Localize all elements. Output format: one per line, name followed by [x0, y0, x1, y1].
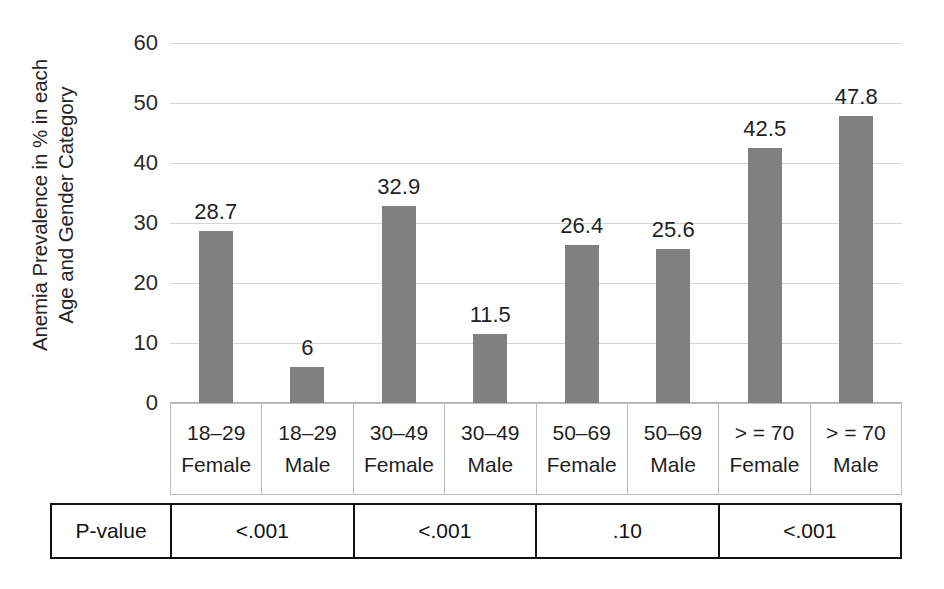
gridline-20	[170, 283, 902, 284]
category-gender-label: Female	[181, 450, 251, 480]
y-axis-title-line-1: Anemia Prevalence in % in each	[27, 59, 53, 351]
anemia-prevalence-figure: Anemia Prevalence in % in each Age and G…	[0, 0, 944, 589]
category-gender-label: Female	[364, 450, 434, 480]
bar	[839, 116, 873, 403]
bar-value-label: 42.5	[743, 116, 786, 142]
bar	[382, 206, 416, 403]
category-cell: 30–49Female	[353, 404, 444, 494]
bar-value-label: 26.4	[560, 213, 603, 239]
y-tick-20: 20	[134, 270, 158, 296]
category-age-label: 50–69	[644, 418, 702, 448]
pvalue-cell-30-49: <.001	[355, 505, 538, 557]
category-age-label: > = 70	[826, 418, 886, 448]
category-gender-label: Female	[547, 450, 617, 480]
bar-value-label: 25.6	[652, 217, 695, 243]
category-cell: 18–29Male	[261, 404, 352, 494]
pvalue-row-label: P-value	[75, 519, 146, 543]
gridline-10	[170, 343, 902, 344]
category-gender-label: Female	[729, 450, 799, 480]
pvalue-value-30-49: <.001	[418, 519, 471, 543]
bar	[748, 148, 782, 403]
bar	[473, 334, 507, 403]
gridline-50	[170, 103, 902, 104]
bar-value-label: 6	[301, 335, 313, 361]
pvalue-cell-18-29: <.001	[172, 505, 355, 557]
bar	[565, 245, 599, 403]
category-cell: 50–69Male	[627, 404, 718, 494]
category-age-label: 50–69	[552, 418, 610, 448]
category-gender-label: Male	[650, 450, 696, 480]
gridline-30	[170, 223, 902, 224]
pvalue-value-50-69: .10	[613, 519, 642, 543]
category-cell: 50–69Female	[536, 404, 627, 494]
y-tick-60: 60	[134, 30, 158, 56]
bar-value-label: 32.9	[377, 174, 420, 200]
y-tick-0: 0	[146, 390, 158, 416]
bar-value-label: 11.5	[470, 302, 511, 328]
gridline-60	[170, 43, 902, 44]
category-age-label: > = 70	[735, 418, 795, 448]
pvalue-value-18-29: <.001	[236, 519, 289, 543]
y-tick-10: 10	[134, 330, 158, 356]
category-cell: > = 70Male	[810, 404, 902, 494]
category-age-label: 30–49	[461, 418, 519, 448]
y-tick-30: 30	[134, 210, 158, 236]
y-tick-50: 50	[134, 90, 158, 116]
y-axis-title: Anemia Prevalence in % in each Age and G…	[8, 0, 98, 410]
category-age-label: 18–29	[278, 418, 336, 448]
bar	[199, 231, 233, 403]
pvalue-row-label-cell: P-value	[52, 505, 172, 557]
plot-area: 28.7632.911.526.425.642.547.8	[170, 43, 902, 403]
pvalue-cell-70-plus: <.001	[720, 505, 901, 557]
bar-value-label: 47.8	[835, 84, 878, 110]
bar	[290, 367, 324, 403]
gridline-40	[170, 163, 902, 164]
bar	[656, 249, 690, 403]
category-gender-label: Male	[833, 450, 879, 480]
pvalue-table: P-value <.001 <.001 .10 <.001	[50, 503, 902, 559]
category-gender-label: Male	[285, 450, 331, 480]
y-axis-tick-labels: 0 10 20 30 40 50 60	[96, 43, 158, 403]
category-cell: 18–29Female	[170, 404, 261, 494]
category-axis-table: 18–29Female18–29Male30–49Female30–49Male…	[170, 403, 902, 495]
pvalue-value-70-plus: <.001	[783, 519, 836, 543]
bar-value-label: 28.7	[194, 199, 237, 225]
category-gender-label: Male	[468, 450, 514, 480]
category-cell: 30–49Male	[444, 404, 535, 494]
category-cell: > = 70Female	[718, 404, 809, 494]
pvalue-cell-50-69: .10	[537, 505, 720, 557]
y-tick-40: 40	[134, 150, 158, 176]
category-age-label: 30–49	[370, 418, 428, 448]
y-axis-title-line-2: Age and Gender Category	[53, 59, 79, 351]
category-age-label: 18–29	[187, 418, 245, 448]
